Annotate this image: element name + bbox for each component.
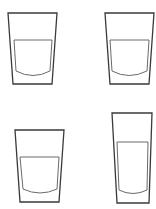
- glass-bottom-right: [112, 113, 152, 203]
- water-level: [14, 40, 52, 76]
- water-level: [110, 40, 149, 76]
- glasses-diagram: [0, 0, 156, 209]
- water-level: [117, 142, 148, 194]
- water-level: [20, 157, 59, 193]
- glass-top-left: [8, 13, 57, 84]
- glass-bottom-left: [15, 130, 64, 202]
- glass-top-right: [105, 13, 154, 84]
